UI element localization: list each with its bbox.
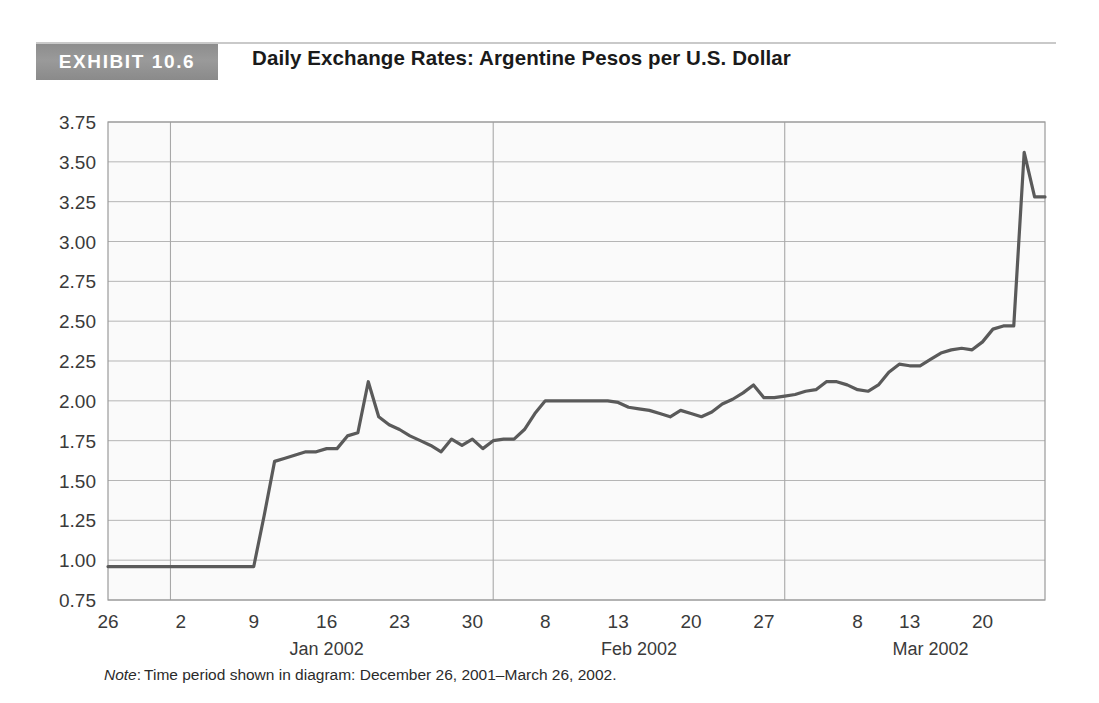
y-tick-label: 2.00 <box>59 391 96 412</box>
figure-note: Note:Time period shown in diagram: Decem… <box>104 666 617 684</box>
x-tick-label: 13 <box>899 611 920 632</box>
x-tick-label: 13 <box>608 611 629 632</box>
x-axis-month-labels: Jan 2002Feb 2002Mar 2002 <box>290 639 969 659</box>
line-chart: 3.753.503.253.002.752.502.252.001.751.50… <box>0 0 1099 703</box>
chart-svg: 3.753.503.253.002.752.502.252.001.751.50… <box>0 0 1099 703</box>
x-tick-label: 9 <box>248 611 259 632</box>
y-tick-label: 3.50 <box>59 152 96 173</box>
x-tick-label: 8 <box>852 611 863 632</box>
x-tick-label: 20 <box>680 611 701 632</box>
y-tick-label: 2.75 <box>59 271 96 292</box>
y-tick-label: 3.25 <box>59 192 96 213</box>
x-tick-label: 20 <box>972 611 993 632</box>
x-axis-tick-labels: 2629162330813202781320 <box>97 611 993 632</box>
note-text: Time period shown in diagram: December 2… <box>144 666 616 683</box>
y-tick-label: 3.75 <box>59 112 96 133</box>
y-tick-label: 1.50 <box>59 471 96 492</box>
x-tick-label: 30 <box>462 611 483 632</box>
exhibit-page: EXHIBIT 10.6 Daily Exchange Rates: Argen… <box>0 0 1099 703</box>
note-separator: : <box>137 666 141 683</box>
y-tick-label: 3.00 <box>59 232 96 253</box>
y-axis-tick-labels: 3.753.503.253.002.752.502.252.001.751.50… <box>59 112 96 611</box>
x-tick-label: 16 <box>316 611 337 632</box>
x-tick-label: 23 <box>389 611 410 632</box>
y-tick-label: 1.75 <box>59 431 96 452</box>
y-tick-label: 1.00 <box>59 550 96 571</box>
x-tick-label: 26 <box>97 611 118 632</box>
y-tick-label: 0.75 <box>59 590 96 611</box>
x-tick-label: 27 <box>753 611 774 632</box>
y-tick-label: 2.50 <box>59 311 96 332</box>
x-tick-label: 2 <box>176 611 187 632</box>
x-month-label: Mar 2002 <box>892 639 968 659</box>
y-tick-label: 2.25 <box>59 351 96 372</box>
x-month-label: Feb 2002 <box>601 639 677 659</box>
x-tick-label: 8 <box>540 611 551 632</box>
y-tick-label: 1.25 <box>59 510 96 531</box>
note-label: Note <box>104 666 137 683</box>
x-month-label: Jan 2002 <box>290 639 364 659</box>
